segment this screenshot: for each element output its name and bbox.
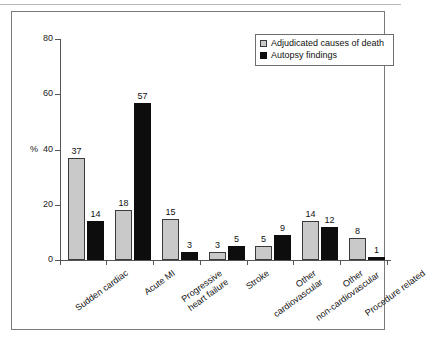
- x-label-stroke-line-1: Stroke: [244, 268, 271, 291]
- bar-value-autopsy-other-non-cardiovascular: 12: [321, 216, 338, 225]
- bar-group-sudden-cardiac: 37 14: [68, 39, 106, 260]
- bar-adjudicated-procedure-related[interactable]: [349, 238, 366, 260]
- bar-group-acute-mi: 18 57: [115, 39, 153, 260]
- y-tick-label-80: 80: [43, 34, 53, 43]
- bar-adjudicated-other-cardiovascular[interactable]: [255, 246, 272, 260]
- bars-layer: 37 14 18 57 15 3 3 5: [60, 39, 391, 260]
- bar-adjudicated-progressive-heart-failure[interactable]: [162, 219, 179, 260]
- bar-adjudicated-stroke[interactable]: [209, 252, 226, 260]
- bar-group-other-cardiovascular: 5 9: [255, 39, 293, 260]
- bar-autopsy-sudden-cardiac[interactable]: [87, 221, 104, 260]
- y-tick-label-0: 0: [48, 255, 53, 264]
- bar-value-adjudicated-sudden-cardiac: 37: [68, 147, 85, 156]
- bar-autopsy-progressive-heart-failure[interactable]: [181, 252, 198, 260]
- x-axis-line: [60, 260, 391, 261]
- bar-value-adjudicated-other-cardiovascular: 5: [255, 235, 272, 244]
- bar-autopsy-acute-mi[interactable]: [134, 103, 151, 260]
- x-label-acute-mi-line-1: Acute MI: [142, 268, 177, 297]
- bar-group-progressive-heart-failure: 15 3: [162, 39, 200, 260]
- y-axis-unit-label: %: [30, 145, 38, 154]
- bar-autopsy-procedure-related[interactable]: [368, 257, 385, 260]
- bar-value-autopsy-sudden-cardiac: 14: [87, 210, 104, 219]
- bar-group-other-non-cardiovascular: 14 12: [302, 39, 340, 260]
- bar-value-autopsy-stroke: 5: [228, 235, 245, 244]
- figure-frame: Adjudicated causes of death Autopsy find…: [11, 11, 385, 330]
- bar-value-adjudicated-stroke: 3: [209, 241, 226, 250]
- bar-value-autopsy-acute-mi: 57: [134, 92, 151, 101]
- bar-autopsy-other-cardiovascular[interactable]: [274, 235, 291, 260]
- x-axis-category-labels: Sudden cardiac Acute MI Progressive hear…: [60, 264, 391, 341]
- bar-value-autopsy-procedure-related: 1: [368, 246, 385, 255]
- bar-adjudicated-sudden-cardiac[interactable]: [68, 158, 85, 260]
- bar-value-autopsy-other-cardiovascular: 9: [274, 224, 291, 233]
- bar-group-stroke: 3 5: [209, 39, 247, 260]
- bar-group-procedure-related: 8 1: [349, 39, 387, 260]
- bar-value-autopsy-progressive-heart-failure: 3: [181, 241, 198, 250]
- page-top-rule: [0, 4, 401, 5]
- y-tick-label-40: 40: [43, 145, 53, 154]
- bar-autopsy-stroke[interactable]: [228, 246, 245, 260]
- bar-adjudicated-acute-mi[interactable]: [115, 210, 132, 260]
- bar-autopsy-other-non-cardiovascular[interactable]: [321, 227, 338, 260]
- bar-adjudicated-other-non-cardiovascular[interactable]: [302, 221, 319, 260]
- y-tick-label-20: 20: [43, 200, 53, 209]
- bar-value-adjudicated-progressive-heart-failure: 15: [162, 208, 179, 217]
- y-tick-label-60: 60: [43, 89, 53, 98]
- bar-value-adjudicated-other-non-cardiovascular: 14: [302, 210, 319, 219]
- bar-value-adjudicated-procedure-related: 8: [349, 227, 366, 236]
- bar-value-adjudicated-acute-mi: 18: [115, 199, 132, 208]
